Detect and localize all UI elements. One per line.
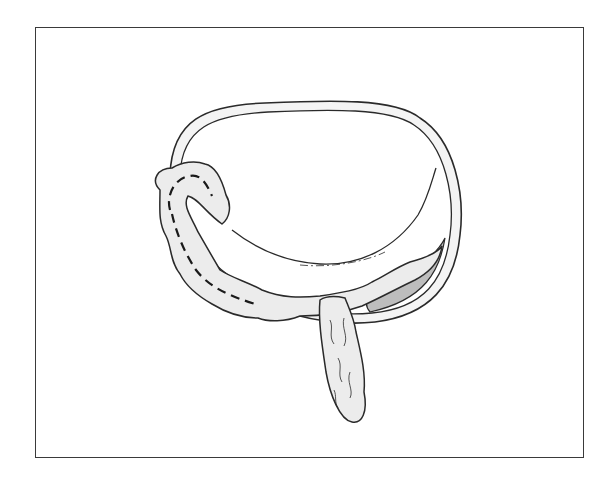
anatomical-illustration bbox=[0, 0, 614, 484]
